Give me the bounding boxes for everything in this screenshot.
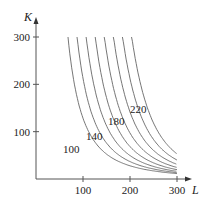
level-curve-120: [77, 37, 177, 173]
curve-label-100: 100: [63, 143, 80, 155]
curve-labels: 100140180220: [63, 103, 147, 155]
y-tick-label: 200: [14, 78, 31, 90]
x-axis-arrow-icon: [185, 177, 192, 182]
y-tick-label: 300: [14, 31, 31, 43]
level-curves-chart: 100140180220 K L 100200300100200300: [0, 0, 204, 204]
x-tick-label: 300: [169, 184, 186, 196]
x-tick-label: 100: [75, 184, 92, 196]
y-axis-label: K: [23, 10, 33, 24]
y-axis-arrow-icon: [34, 17, 39, 24]
x-tick-label: 200: [122, 184, 139, 196]
curve-label-140: 140: [86, 130, 103, 142]
level-curve-220: [122, 37, 176, 160]
y-tick-label: 100: [14, 126, 31, 138]
level-curves: [68, 37, 177, 174]
curve-label-180: 180: [108, 115, 125, 127]
level-curve-240: [132, 37, 177, 154]
curve-label-220: 220: [130, 103, 147, 115]
level-curve-100: [68, 37, 177, 174]
axis-ticks: 100200300100200300: [14, 31, 186, 196]
x-axis-label: L: [191, 183, 199, 197]
